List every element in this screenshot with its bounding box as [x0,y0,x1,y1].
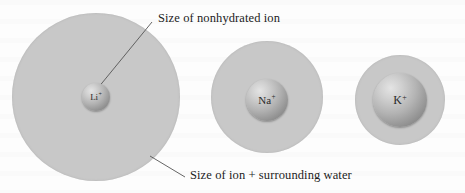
ion-symbol-potassium: K [393,94,402,106]
ion-hydration-diagram: Li+ Na+ K+ Size of nonhydrated ion Size … [0,0,465,193]
ion-charge-potassium: + [402,94,406,102]
ion-sphere-lithium: Li+ [82,83,110,111]
label-hydrated-ion-size: Size of ion + surrounding water [190,168,352,183]
ion-symbol-sodium: Na [258,95,271,106]
hydrated-leader-line [150,156,185,177]
ion-charge-sodium: + [272,94,276,101]
ion-charge-lithium: + [99,92,102,98]
label-nonhydrated-ion-size: Size of nonhydrated ion [158,11,280,26]
ion-symbol-lithium: Li [90,93,98,102]
ion-sphere-sodium: Na+ [246,79,288,121]
ion-sphere-potassium: K+ [373,73,427,127]
